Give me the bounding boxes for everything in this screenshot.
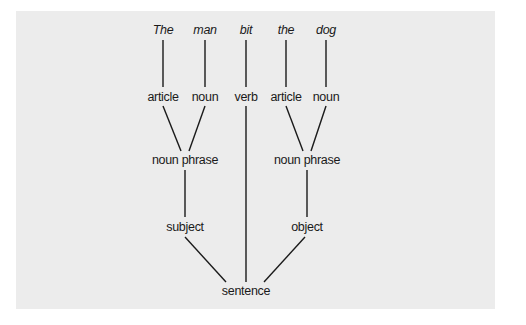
edge-object-sentence — [264, 237, 305, 282]
pos-noun: noun — [192, 91, 219, 104]
edge-article-np-right — [286, 106, 303, 151]
pos-verb: verb — [234, 91, 257, 104]
pos-noun-2: noun — [313, 91, 340, 104]
edge-subject-sentence — [185, 237, 226, 282]
root-sentence: sentence — [222, 285, 270, 298]
word-man: man — [193, 24, 216, 37]
edge-noun-np-left — [189, 106, 205, 151]
word-the-2: the — [278, 24, 294, 37]
phrase-noun-phrase-right: noun phrase — [274, 154, 340, 167]
role-subject: subject — [166, 221, 204, 234]
parse-tree-edges — [0, 0, 526, 325]
phrase-noun-phrase-left: noun phrase — [152, 154, 218, 167]
pos-article-2: article — [270, 91, 301, 104]
word-bit: bit — [240, 24, 252, 37]
word-the: The — [153, 24, 174, 37]
role-object: object — [291, 221, 323, 234]
pos-article: article — [147, 91, 178, 104]
word-dog: dog — [316, 24, 336, 37]
edge-noun-np-right — [311, 106, 326, 151]
edge-article-np-left — [163, 106, 181, 151]
